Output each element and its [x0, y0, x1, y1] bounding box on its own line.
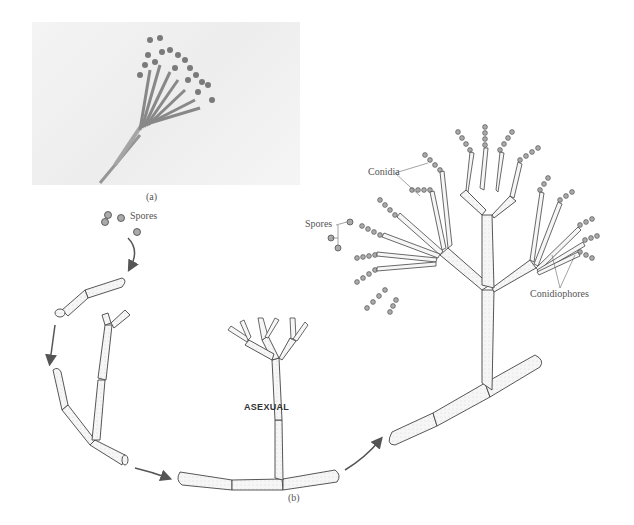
spores-label-top: Spores [130, 210, 157, 221]
spores-label-right: Spores [305, 218, 332, 229]
life-cycle-diagram [0, 0, 634, 525]
panel-b-label: (b) [288, 492, 300, 503]
conidiophores-label: Conidiophores [530, 288, 589, 299]
conidia-label: Conidia [368, 166, 400, 177]
panel-a-label: (a) [146, 191, 157, 202]
photo-conidiophore [100, 35, 215, 183]
asexual-phialides [228, 318, 308, 342]
asexual-label: ASEXUAL [244, 402, 289, 412]
